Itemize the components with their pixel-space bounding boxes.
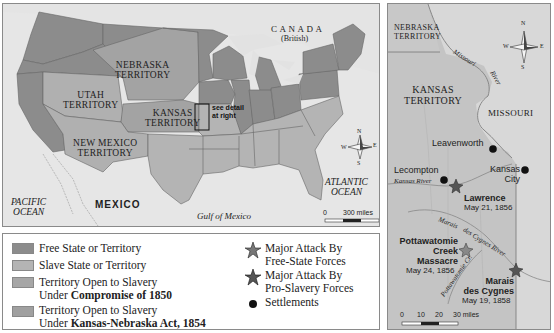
label-kansas-river: Kansas River — [394, 177, 432, 185]
scale-end: 300 miles — [343, 209, 373, 216]
detail-compass-s: S — [521, 64, 524, 70]
detail-scale-0: 0 — [400, 311, 404, 318]
attack-pottawatomie-date: May 24, 1856 — [406, 266, 454, 275]
detail-label-missouri: MISSOURI — [488, 108, 533, 118]
settlement-kansas-city: KansasCity — [490, 164, 520, 184]
legend-swatch-slave — [12, 260, 34, 271]
label-utah-territory: UTAHTERRITORY — [63, 90, 118, 110]
detail-scale-30: 30 miles — [453, 311, 479, 318]
detail-compass-w: W — [503, 43, 509, 49]
attack-lawrence-date: May 21, 1856 — [464, 203, 512, 212]
detail-scale-10: 10 — [417, 311, 425, 318]
label-kansas-territory: KANSASTERRITORY — [145, 108, 200, 128]
settlement-dot-leavenworth — [489, 145, 497, 153]
detail-label-nebraska: NEBRASKATERRITORY — [394, 23, 441, 41]
attack-lawrence-name: Lawrence — [464, 193, 506, 203]
scale-start: 0 — [323, 209, 327, 216]
compass-rose-main — [348, 135, 372, 159]
compass-w: W — [341, 144, 347, 150]
settlement-lecompton: Lecompton — [394, 165, 439, 175]
legend-label-slave: Slave State or Territory — [39, 259, 146, 272]
label-nebraska-territory: NEBRASKATERRITORY — [115, 60, 170, 80]
label-canada-british: (British) — [281, 34, 308, 43]
see-detail-note: see detailat right — [212, 104, 244, 120]
legend-label-kansas-nebraska: Territory Open to Slavery Under Kansas-N… — [39, 304, 206, 329]
detail-label-kansas: KANSASTERRITORY — [404, 84, 462, 106]
legend-label-pro-slavery-attack: Major Attack ByPro-Slavery Forces — [265, 269, 353, 294]
settlement-leavenworth: Leavenworth — [432, 138, 484, 148]
legend-swatch-kansas-nebraska — [12, 306, 34, 317]
label-new-mexico-territory: NEW MEXICOTERRITORY — [73, 138, 137, 158]
label-atlantic-ocean: ATLANTICOCEAN — [325, 177, 368, 197]
legend-label-compromise-1850: Territory Open to Slavery Under Compromi… — [39, 276, 172, 301]
compass-n: N — [357, 128, 361, 134]
legend: Free State or Territory Slave State or T… — [2, 233, 380, 330]
attack-marais-date: May 19, 1858 — [462, 296, 510, 305]
detail-map-kansas: NEBRASKATERRITORY KANSASTERRITORY MISSOU… — [387, 3, 551, 330]
detail-compass-e: E — [540, 43, 544, 49]
attack-pottawatomie-name: PottawatomieCreekMassacre — [394, 236, 458, 266]
detail-compass-n: N — [521, 20, 525, 26]
main-map: CANADA (British) NEBRASKATERRITORY UTAHT… — [2, 3, 380, 227]
legend-swatch-free — [12, 243, 34, 254]
label-gulf-of-mexico: Gulf of Mexico — [197, 211, 251, 221]
settlement-dot-lecompton — [440, 176, 448, 184]
compass-e: E — [373, 142, 377, 148]
detail-scale-20: 20 — [435, 311, 443, 318]
compass-s: S — [357, 160, 360, 166]
label-mexico: MEXICO — [95, 199, 140, 210]
label-canada: CANADA — [271, 24, 325, 34]
pro-slavery-attack-icon — [243, 267, 263, 287]
legend-label-settlements: Settlements — [265, 296, 319, 309]
legend-label-free: Free State or Territory — [39, 242, 141, 255]
settlement-dot-icon — [247, 298, 259, 310]
label-pacific-ocean: PACIFICOCEAN — [11, 197, 46, 217]
legend-swatch-compromise-1850 — [12, 277, 34, 288]
free-state-attack-icon — [243, 240, 263, 260]
attack-star-lawrence — [449, 179, 463, 193]
legend-label-free-state-attack: Major Attack ByFree-State Forces — [265, 242, 346, 267]
settlement-dot-kansas-city — [521, 166, 529, 174]
attack-marais-name: Maraisdes Cygnes — [456, 276, 514, 296]
